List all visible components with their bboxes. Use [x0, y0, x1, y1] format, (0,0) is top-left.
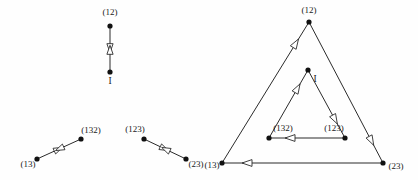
node-label-r-13: (13): [205, 160, 220, 170]
arrowhead-r-e3: [366, 135, 374, 145]
edges-layer: [37, 22, 383, 163]
node-label-r-12: (12): [302, 5, 317, 15]
node-label-l-23: (23): [189, 159, 204, 169]
vertex-r-13[interactable]: [219, 160, 224, 165]
labels-layer: (12)I(13)(132)(123)(23)(12)(13)(23)I(132…: [21, 5, 404, 171]
node-label-l-123: (123): [125, 124, 145, 134]
figure-root: (12)I(13)(132)(123)(23)(12)(13)(23)I(132…: [0, 0, 418, 180]
arrowhead-r-e2: [242, 160, 252, 167]
node-label-l-13: (13): [21, 159, 36, 169]
arrowhead-r-e4: [292, 84, 300, 94]
arrowhead-l-e3-reverse: [162, 147, 171, 154]
node-label-r-I: I: [313, 74, 316, 84]
arrowhead-l-e2-reverse: [55, 144, 64, 151]
node-label-l-12: (12): [103, 7, 118, 17]
vertex-l-123[interactable]: [141, 136, 146, 141]
vertex-r-12[interactable]: [306, 19, 311, 24]
node-label-l-I: I: [108, 76, 111, 86]
node-label-r-23: (23): [389, 161, 404, 171]
node-label-l-132: (132): [81, 125, 101, 135]
vertex-l-12[interactable]: [107, 23, 112, 28]
diagram-canvas: (12)I(13)(132)(123)(23)(12)(13)(23)I(132…: [0, 0, 418, 180]
node-label-r-132: (132): [273, 123, 293, 133]
vertices-layer: [34, 19, 385, 165]
node-label-r-123: (123): [324, 123, 344, 133]
arrowhead-r-e1: [290, 39, 298, 49]
arrowhead-r-e6: [285, 135, 295, 142]
vertex-l-132[interactable]: [78, 136, 83, 141]
vertex-r-123[interactable]: [342, 135, 347, 140]
vertex-l-I[interactable]: [107, 69, 112, 74]
vertex-r-132[interactable]: [266, 135, 271, 140]
vertex-r-23[interactable]: [380, 160, 385, 165]
vertex-r-I[interactable]: [305, 67, 310, 72]
